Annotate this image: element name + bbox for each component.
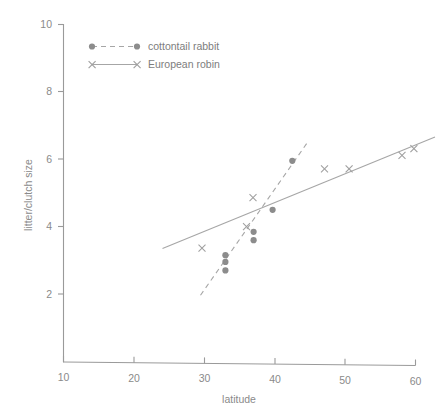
data-point-robin bbox=[321, 165, 328, 172]
legend-label-cottontail-rabbit: cottontail rabbit bbox=[148, 40, 219, 52]
data-point-rabbit bbox=[222, 252, 228, 258]
data-point-robin bbox=[346, 165, 353, 172]
x-tick-label-40: 40 bbox=[269, 373, 281, 385]
legend-circle-marker-icon bbox=[134, 43, 140, 49]
data-point-rabbit bbox=[289, 158, 295, 164]
data-point-rabbit bbox=[222, 259, 228, 265]
x-tick-label-50: 50 bbox=[339, 374, 351, 386]
axis-group: 10 8 6 4 2 10 20 30 40 50 60 latitude li… bbox=[22, 18, 421, 405]
robin-trend-line bbox=[163, 137, 436, 249]
y-tick-label-8: 8 bbox=[46, 85, 52, 97]
x-axis-line bbox=[64, 362, 416, 366]
y-axis-ticks bbox=[58, 25, 64, 295]
data-point-rabbit bbox=[251, 229, 257, 235]
scatter-plot-figure: 10 8 6 4 2 10 20 30 40 50 60 latitude li… bbox=[0, 0, 447, 417]
trend-lines-group bbox=[163, 137, 436, 295]
y-tick-label-2: 2 bbox=[46, 288, 52, 300]
x-tick-label-30: 30 bbox=[199, 372, 211, 384]
y-tick-label-4: 4 bbox=[46, 220, 52, 232]
y-tick-label-6: 6 bbox=[46, 153, 52, 165]
data-point-robin bbox=[410, 145, 417, 152]
x-tick-label-10: 10 bbox=[58, 371, 70, 383]
legend-entry-european-robin[interactable]: European robin bbox=[89, 58, 220, 70]
data-point-robin bbox=[250, 194, 257, 201]
data-point-rabbit bbox=[251, 237, 257, 243]
robin-data-points bbox=[199, 145, 418, 251]
x-tick-label-60: 60 bbox=[410, 375, 422, 387]
legend-label-european-robin: European robin bbox=[148, 58, 220, 70]
data-point-rabbit bbox=[222, 267, 228, 273]
legend-circle-marker-icon bbox=[89, 43, 95, 49]
legend-entry-cottontail-rabbit[interactable]: cottontail rabbit bbox=[89, 40, 219, 52]
x-tick-label-20: 20 bbox=[128, 372, 140, 384]
data-point-robin bbox=[399, 152, 406, 159]
y-axis-title: litter/clutch size bbox=[22, 159, 34, 231]
x-axis-title: latitude bbox=[222, 393, 256, 405]
data-point-robin bbox=[199, 245, 206, 252]
rabbit-trend-line bbox=[201, 143, 308, 295]
chart-canvas: 10 8 6 4 2 10 20 30 40 50 60 latitude li… bbox=[0, 0, 447, 417]
y-tick-label-10: 10 bbox=[40, 18, 52, 30]
data-point-rabbit bbox=[270, 207, 276, 213]
chart-legend: cottontail rabbit European robin bbox=[89, 40, 220, 70]
